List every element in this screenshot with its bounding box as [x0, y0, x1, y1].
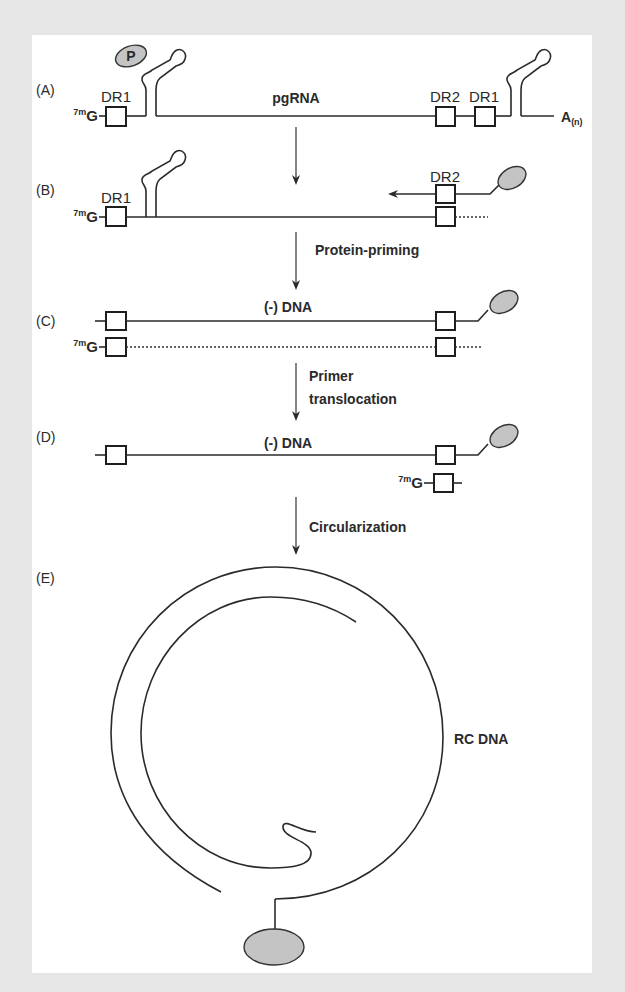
polymerase-protein-icon — [494, 162, 530, 194]
polymerase-protein-icon — [486, 420, 522, 452]
rc-dna-plus-strand — [141, 597, 356, 868]
translocated-primer-box — [434, 474, 453, 492]
panel-d-label: (D) — [36, 429, 55, 445]
panel-c-label: (C) — [36, 313, 55, 329]
dr1-label-b: DR1 — [101, 189, 131, 206]
dr2-label-a: DR2 — [430, 88, 460, 105]
dr-box-c-rna-right — [436, 338, 455, 356]
dr-box-d-right — [436, 446, 455, 464]
step-label-circularization: Circularization — [309, 519, 406, 535]
panel-a: (A) P 7mG DR1 pgRNA DR2 DR1 A(n) — [36, 41, 583, 127]
cap-label-a: 7mG — [73, 107, 98, 124]
dr2-box-b — [436, 185, 455, 203]
dr-box-d — [106, 446, 126, 464]
dr2-box — [436, 107, 455, 126]
rc-dna-minus-strand — [111, 567, 443, 899]
dr1-right-label-a: DR1 — [469, 88, 499, 105]
poly-a-tail-label: A(n) — [561, 109, 583, 127]
pgrna-label: pgRNA — [272, 90, 319, 106]
panel-d: (D) (-) DNA 7mG — [36, 420, 522, 492]
panel-a-label: (A) — [36, 82, 55, 98]
protein-label: P — [126, 48, 135, 64]
polymerase-protein-icon: P — [113, 41, 150, 71]
panel-b-label: (B) — [36, 182, 55, 198]
panel-e: (E) RC DNA — [36, 567, 508, 965]
hbv-replication-diagram: (A) P 7mG DR1 pgRNA DR2 DR1 A(n) (B) 7mG — [0, 0, 625, 992]
dr-box-c-rna — [106, 338, 126, 356]
dr1-box — [106, 107, 126, 126]
minus-dna-label-c: (-) DNA — [264, 299, 312, 315]
cap-label-c: 7mG — [73, 338, 98, 355]
panel-b: (B) 7mG DR1 DR2 — [36, 151, 530, 226]
dr1-box-b-right — [436, 207, 455, 226]
epsilon-stem-loop-b — [142, 151, 186, 217]
dr1-left-label-a: DR1 — [101, 88, 131, 105]
rc-dna-label: RC DNA — [454, 731, 508, 747]
dr2-label-b: DR2 — [430, 168, 460, 185]
epsilon-stem-loop — [142, 50, 186, 116]
epsilon-stem-loop-3prime — [507, 50, 551, 116]
dr1-box-b — [106, 207, 126, 226]
panel-c: (C) (-) DNA 7mG — [36, 286, 522, 356]
step-label-primer: Primer — [309, 368, 354, 384]
step-label-protein-priming: Protein-priming — [315, 242, 419, 258]
minus-dna-label-d: (-) DNA — [264, 435, 312, 451]
step-label-translocation: translocation — [309, 391, 397, 407]
dr-box-c-right — [436, 312, 455, 330]
cap-label-b: 7mG — [73, 208, 98, 225]
dr-box-c — [106, 312, 126, 330]
polymerase-protein-icon — [486, 286, 522, 318]
polymerase-protein-icon — [244, 929, 304, 965]
dr1-box-right — [475, 107, 495, 126]
panel-e-label: (E) — [36, 570, 55, 586]
cap-label-d: 7mG — [398, 474, 423, 491]
